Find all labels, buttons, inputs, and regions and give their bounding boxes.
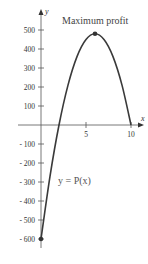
- y-tick-label: - 500: [19, 216, 35, 225]
- y-axis-label: y: [44, 7, 49, 16]
- data-point: [93, 32, 98, 37]
- axes: [18, 9, 144, 248]
- y-tick-label: 400: [24, 45, 36, 54]
- x-axis-arrow-icon: [138, 123, 144, 128]
- y-tick-label: - 200: [19, 159, 35, 168]
- data-point: [39, 237, 44, 242]
- y-tick-label: 200: [24, 83, 36, 92]
- y-tick-label: 100: [24, 102, 36, 111]
- y-tick-label: 500: [24, 26, 36, 35]
- x-tick-label: 10: [127, 130, 135, 139]
- y-tick-label: - 400: [19, 197, 35, 206]
- annotation-maximum-profit: Maximum profit: [62, 15, 129, 26]
- curve-label: y = P(x): [58, 175, 91, 187]
- points: [39, 32, 98, 242]
- y-tick-label: - 100: [19, 140, 35, 149]
- y-tick-label: 300: [24, 64, 36, 73]
- x-axis-label: x: [140, 114, 145, 123]
- profit-chart: 510500400300200100- 100- 200- 300- 400- …: [0, 0, 148, 264]
- y-axis-arrow-icon: [39, 9, 44, 15]
- y-tick-label: - 600: [19, 235, 35, 244]
- x-tick-label: 5: [84, 130, 88, 139]
- y-tick-label: - 300: [19, 178, 35, 187]
